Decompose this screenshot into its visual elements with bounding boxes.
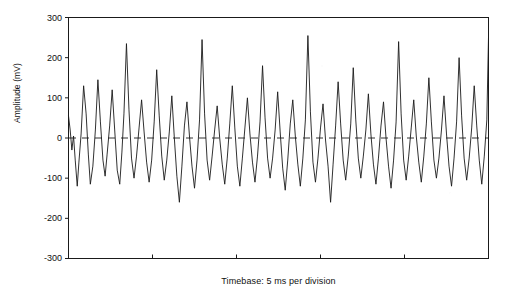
x-axis-caption: Timebase: 5 ms per division <box>68 276 489 286</box>
plot-area <box>0 0 511 301</box>
chart-figure: Amplitude (mV) 300 200 100 0 -100 -200 -… <box>0 0 511 301</box>
